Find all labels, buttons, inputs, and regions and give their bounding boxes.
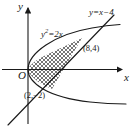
y-axis-label: y: [18, 1, 23, 12]
parabola-line-figure: y x O y2=2x y=x−4 (8,4) (2,−2): [0, 0, 137, 129]
point-label-lower-intersection: (2,−2): [24, 91, 45, 100]
shaded-region: [28, 38, 82, 89]
x-axis-label: x: [124, 72, 129, 83]
figure-canvas: [0, 0, 137, 129]
parabola-eq-rest: =2x: [48, 29, 63, 39]
point-label-upper-intersection: (8,4): [83, 44, 99, 53]
parabola-equation-label: y2=2x: [41, 28, 63, 39]
origin-label: O: [18, 70, 26, 81]
line-equation-label: y=x−4: [89, 8, 114, 17]
